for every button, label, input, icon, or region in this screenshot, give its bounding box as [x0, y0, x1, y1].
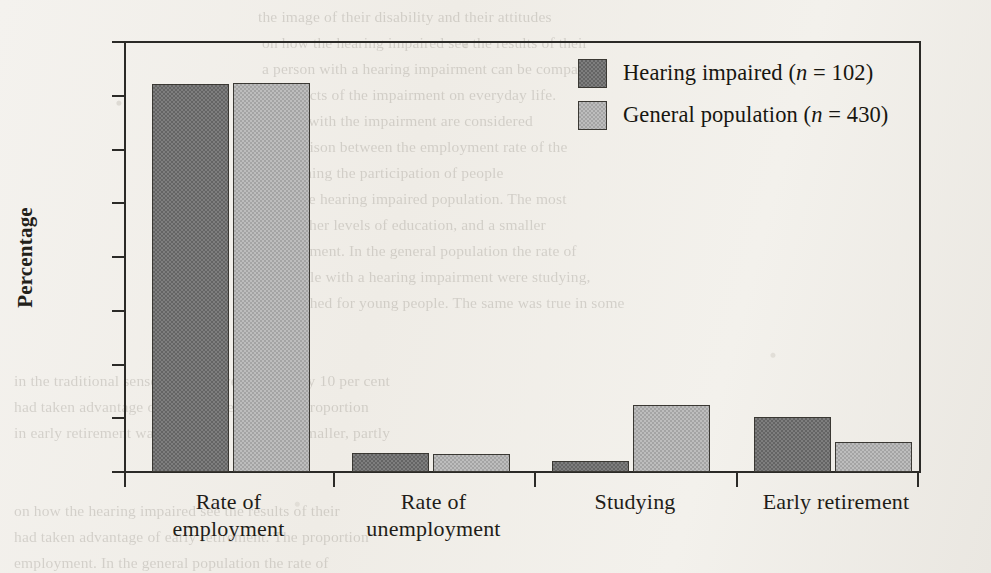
legend-item-general-population: General population (n = 430): [578, 94, 888, 136]
x-tick-boundary-1: [333, 472, 335, 487]
y-tick-30: [112, 310, 124, 312]
bar-early-retirement-general-population: [835, 442, 912, 472]
x-group-label-line1: Early retirement: [730, 488, 942, 515]
x-group-label-line1: Rate of: [333, 488, 534, 515]
legend-item-hearing-impaired: Hearing impaired (n = 102): [578, 52, 888, 94]
bar-studying-general-population: [633, 405, 710, 472]
legend-swatch-hearing-impaired: [578, 59, 607, 88]
legend-label-tail: = 102): [807, 60, 873, 85]
y-tick-60: [112, 149, 124, 151]
y-axis-title-text: Percentage: [13, 207, 38, 308]
legend-label-tail: = 430): [823, 102, 889, 127]
x-tick-boundary-4: [917, 472, 919, 487]
x-tick-boundary-0: [124, 472, 126, 487]
bar-unemployment-general-population: [433, 454, 510, 472]
chart-legend: Hearing impaired (n = 102) General popul…: [578, 52, 888, 136]
bar-employment-hearing-impaired: [152, 84, 229, 472]
legend-label-general-population: General population (n = 430): [623, 102, 888, 128]
x-tick-boundary-3: [736, 472, 738, 487]
x-group-label-line1: Studying: [534, 488, 736, 515]
legend-label-main: Hearing impaired (: [623, 60, 796, 85]
plot-right-border: [919, 41, 921, 473]
y-axis-title: Percentage: [10, 42, 40, 472]
legend-label-n-italic: n: [796, 60, 807, 85]
y-tick-0: [112, 471, 124, 473]
x-group-label-employment: Rate of employment: [124, 488, 333, 542]
y-tick-70: [112, 95, 124, 97]
bar-unemployment-hearing-impaired: [352, 453, 429, 472]
x-group-label-unemployment: Rate of unemployment: [333, 488, 534, 542]
x-group-label-line2: unemployment: [333, 515, 534, 542]
y-tick-20: [112, 364, 124, 366]
x-group-label-line1: Rate of: [124, 488, 333, 515]
legend-label-hearing-impaired: Hearing impaired (n = 102): [623, 60, 873, 86]
y-axis-line: [124, 41, 126, 473]
x-tick-boundary-2: [534, 472, 536, 487]
legend-swatch-general-population: [578, 101, 607, 130]
legend-label-n-italic: n: [811, 102, 822, 127]
bar-studying-hearing-impaired: [552, 461, 629, 472]
plot-top-border: [124, 41, 921, 43]
x-group-label-studying: Studying: [534, 488, 736, 515]
bar-employment-general-population: [233, 83, 310, 472]
y-tick-40: [112, 256, 124, 258]
legend-label-main: General population (: [623, 102, 811, 127]
y-tick-50: [112, 202, 124, 204]
bar-early-retirement-hearing-impaired: [754, 417, 831, 472]
y-tick-80: [112, 41, 124, 43]
bar-chart-figure: Percentage 80 70 60 50 40 30 20 10 0: [0, 0, 991, 573]
x-group-label-early-retirement: Early retirement: [730, 488, 942, 515]
y-tick-10: [112, 417, 124, 419]
x-group-label-line2: employment: [124, 515, 333, 542]
